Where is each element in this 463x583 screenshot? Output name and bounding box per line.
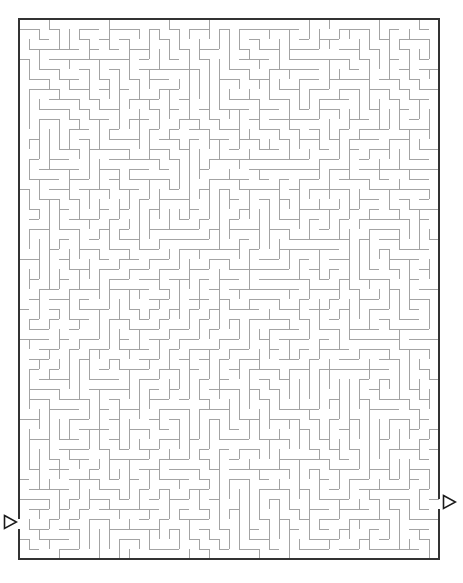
- maze-grid: [0, 0, 463, 583]
- maze-puzzle: [0, 0, 463, 583]
